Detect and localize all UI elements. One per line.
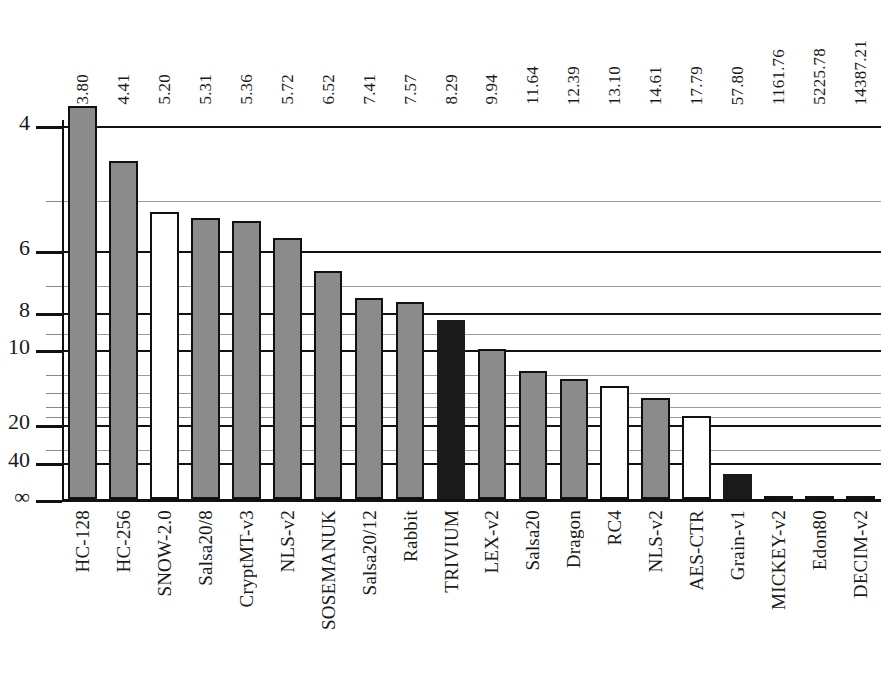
- x-axis-label-text: Grain-v1: [728, 510, 747, 580]
- x-axis-label: Salsa20/12: [349, 510, 390, 600]
- x-axis-label: AES-CTR: [676, 510, 717, 596]
- value-label-text: 11.64: [524, 66, 541, 105]
- bar-nls-v2: [641, 398, 670, 499]
- y-tick-label: 20: [0, 411, 30, 433]
- value-label-text: 8.29: [443, 74, 460, 105]
- y-tick-label: 6: [0, 237, 30, 259]
- x-axis-label: LEX-v2: [472, 510, 513, 578]
- gridline-minor: [62, 334, 881, 335]
- x-axis-label-text: TRIVIUM: [442, 510, 461, 593]
- value-label: 5.31: [185, 74, 226, 110]
- x-axis-label: Rabbit: [390, 510, 431, 567]
- x-axis-label-text: CryptMT-v3: [237, 510, 256, 607]
- value-label: 7.41: [349, 74, 390, 110]
- bar-hc-256: [109, 161, 138, 499]
- x-axis-label-text: RC4: [605, 510, 624, 545]
- x-axis-label: Edon80: [799, 510, 840, 575]
- y-tick-mark: [36, 500, 62, 503]
- value-label: 5.36: [226, 74, 267, 110]
- x-axis-label-text: Dragon: [564, 510, 583, 568]
- x-axis-label: Dragon: [553, 510, 594, 573]
- y-tick-mark: [36, 350, 62, 353]
- bar-sosemanuk: [314, 271, 343, 499]
- x-axis-label: CryptMT-v3: [226, 510, 267, 612]
- value-label-text: 7.41: [361, 74, 378, 105]
- value-label: 17.79: [676, 66, 717, 110]
- bar-trivium: [437, 320, 466, 499]
- value-label: 8.29: [431, 74, 472, 110]
- x-axis-label-text: Salsa20/8: [196, 510, 215, 586]
- value-label-text: 12.39: [565, 66, 582, 105]
- value-label-text: 5.36: [238, 74, 255, 105]
- value-label: 7.57: [390, 74, 431, 110]
- bar-aes-ctr: [682, 416, 711, 499]
- x-axis-label: NLS-v2: [635, 510, 676, 577]
- bar-salsa20-12: [355, 298, 384, 499]
- bar-lex-v2: [478, 349, 507, 499]
- bar-rabbit: [396, 302, 425, 499]
- y-tick-mark: [46, 417, 62, 418]
- x-axis-label-text: Salsa20/12: [360, 510, 379, 595]
- value-label: 6.52: [308, 74, 349, 110]
- gridline-minor: [62, 375, 881, 376]
- gridline-major: [62, 313, 881, 315]
- bar-salsa20: [519, 371, 548, 499]
- value-label-text: 6.52: [320, 74, 337, 105]
- value-label-text: 5.31: [197, 74, 214, 105]
- bar-hc-128: [68, 106, 97, 499]
- y-tick-mark: [36, 425, 62, 428]
- x-axis-label-text: LEX-v2: [482, 510, 501, 573]
- value-label: 14387.21: [840, 40, 881, 110]
- value-label-text: 13.10: [606, 66, 623, 105]
- x-axis-label: MICKEY-v2: [758, 510, 799, 615]
- gridline-major: [62, 126, 881, 128]
- x-axis-label: Salsa20: [512, 510, 553, 576]
- x-axis-label: HC-128: [62, 510, 103, 577]
- x-axis-label: HC-256: [103, 510, 144, 577]
- value-label: 57.80: [717, 66, 758, 110]
- bar-rc4: [600, 386, 629, 499]
- y-tick-label: 8: [0, 299, 30, 321]
- y-tick-mark: [46, 393, 62, 394]
- value-label-text: 7.57: [402, 74, 419, 105]
- gridline-minor: [62, 201, 881, 202]
- value-label-text: 4.41: [115, 74, 132, 105]
- chart-figure: 3.804.415.205.315.365.726.527.417.578.29…: [0, 0, 889, 692]
- value-label: 12.39: [553, 66, 594, 110]
- x-axis-label-text: NLS-v2: [278, 510, 297, 572]
- value-label: 13.10: [594, 66, 635, 110]
- y-tick-label: ∞: [0, 486, 30, 508]
- x-axis-label-text: Salsa20: [523, 510, 542, 571]
- y-tick-label: 10: [0, 336, 30, 358]
- value-label-text: 14387.21: [852, 40, 869, 105]
- x-axis-label: Grain-v1: [717, 510, 758, 585]
- value-label-text: 1161.76: [770, 49, 787, 105]
- gridline-minor: [62, 450, 881, 451]
- value-label: 14.61: [635, 66, 676, 110]
- x-axis-label-text: SOSEMANUK: [319, 510, 338, 630]
- bar-salsa20-8: [191, 218, 220, 499]
- gridline-major: [62, 251, 881, 253]
- x-axis-label: DECIM-v2: [840, 510, 881, 603]
- gridline-minor: [62, 286, 881, 287]
- bar-dragon: [560, 379, 589, 499]
- x-axis-label-text: SNOW-2.0: [155, 510, 174, 597]
- x-axis-label: Salsa20/8: [185, 510, 226, 591]
- bar-cryptmt-v3: [232, 221, 261, 499]
- y-tick-mark: [46, 407, 62, 408]
- x-axis-label-text: NLS-v2: [646, 510, 665, 572]
- gridline-major: [62, 463, 881, 465]
- y-tick-mark: [46, 375, 62, 376]
- gridline-minor: [62, 407, 881, 408]
- x-axis-line: [62, 499, 881, 502]
- x-axis-label-text: DECIM-v2: [851, 510, 870, 598]
- y-tick-mark: [46, 334, 62, 335]
- gridline-minor: [62, 393, 881, 394]
- x-axis-label-text: HC-128: [73, 510, 92, 572]
- value-label: 4.41: [103, 74, 144, 110]
- x-axis-label-text: Edon80: [810, 510, 829, 570]
- value-label: 11.64: [512, 66, 553, 110]
- value-label-text: 5.72: [279, 74, 296, 105]
- x-axis-label-text: HC-256: [114, 510, 133, 572]
- value-label: 5.20: [144, 74, 185, 110]
